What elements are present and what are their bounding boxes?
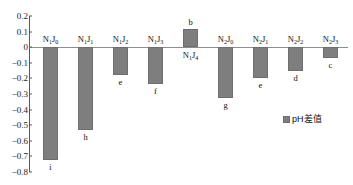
significance-letter-N1J3: f bbox=[154, 87, 157, 96]
y-axis-tick-mark bbox=[29, 62, 32, 63]
legend: pH差值 bbox=[283, 115, 322, 124]
y-axis-tick-mark bbox=[29, 78, 32, 79]
category-label-N1J3: N1J3 bbox=[148, 35, 163, 44]
plot-area: N1J0iN1J1hN1J2eN1J3fN1J4bN2J0gN2J1eN2J2d… bbox=[0, 0, 353, 185]
significance-letter-N2J3: c bbox=[329, 61, 333, 70]
significance-letter-N2J1: e bbox=[259, 81, 263, 90]
bar-N1J3 bbox=[148, 47, 163, 84]
bar-N2J1 bbox=[253, 47, 268, 77]
significance-letter-N1J0: i bbox=[49, 163, 51, 172]
category-label-N1J2: N1J2 bbox=[113, 35, 128, 44]
significance-letter-N2J2: d bbox=[293, 74, 297, 83]
bar-N2J2 bbox=[288, 47, 303, 70]
legend-label-ph-difference: pH差值 bbox=[292, 115, 322, 124]
y-axis-tick-mark bbox=[29, 172, 32, 173]
significance-letter-N1J4: b bbox=[188, 18, 192, 27]
significance-letter-N1J1: h bbox=[83, 133, 87, 142]
bar-N1J2 bbox=[113, 47, 128, 75]
category-label-N1J0: N1J0 bbox=[43, 35, 58, 44]
bar-N1J0 bbox=[43, 47, 58, 159]
y-axis-tick-mark bbox=[29, 156, 32, 157]
bar-N1J4 bbox=[183, 29, 198, 47]
category-label-N2J2: N2J2 bbox=[288, 35, 303, 44]
y-axis-tick-mark bbox=[29, 16, 32, 17]
bar-N2J3 bbox=[323, 47, 338, 58]
bar-chart: 0.20.10−0.1−0.2−0.3−0.4−0.5−0.6−0.7−0.8 … bbox=[0, 0, 353, 185]
legend-swatch-ph-difference bbox=[283, 116, 290, 123]
y-axis-tick-mark bbox=[29, 125, 32, 126]
significance-letter-N1J2: e bbox=[119, 78, 123, 87]
bar-N2J0 bbox=[218, 47, 233, 98]
category-label-N2J3: N2J3 bbox=[323, 35, 338, 44]
category-label-N1J4: N1J4 bbox=[183, 51, 198, 60]
y-axis-tick-mark bbox=[29, 109, 32, 110]
y-axis-tick-mark bbox=[29, 31, 32, 32]
y-axis-tick-mark bbox=[29, 47, 32, 48]
significance-letter-N2J0: g bbox=[223, 101, 227, 110]
category-label-N1J1: N1J1 bbox=[78, 35, 93, 44]
y-axis-tick-mark bbox=[29, 140, 32, 141]
category-label-N2J0: N2J0 bbox=[218, 35, 233, 44]
bar-N1J1 bbox=[78, 47, 93, 130]
category-label-N2J1: N2J1 bbox=[253, 35, 268, 44]
y-axis-tick-mark bbox=[29, 94, 32, 95]
